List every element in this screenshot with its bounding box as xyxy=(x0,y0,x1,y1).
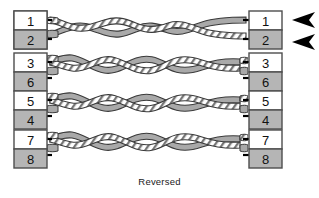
left-pin-label-6: 6 xyxy=(27,75,34,90)
twisted-pair-7-8 xyxy=(47,132,248,152)
left-connector[interactable]: 1 2 3 6 5 4 7 8 xyxy=(14,11,47,168)
left-pin-label-4: 4 xyxy=(27,113,34,128)
cable-bundle xyxy=(47,17,248,152)
twisted-pair-1-2 xyxy=(47,17,246,39)
right-pin-label-7: 7 xyxy=(262,133,269,148)
right-connector[interactable]: 1 2 3 6 5 4 7 8 xyxy=(249,11,282,168)
left-pin-label-1: 1 xyxy=(27,14,34,29)
wire-tip-left-pin8 xyxy=(47,144,58,152)
left-pin-label-3: 3 xyxy=(27,56,34,71)
arrow-marker-pin-2-icon xyxy=(292,34,315,50)
wiring-diagram-svg: 1 2 3 6 5 4 7 8 1 2 3 6 xyxy=(0,0,319,198)
arrow-markers xyxy=(292,12,315,50)
wire-tip-left-pin7 xyxy=(47,132,58,139)
wire-tip-left-pin4 xyxy=(47,105,58,113)
wire-tip-left-pin6 xyxy=(47,67,58,75)
wire-tip-left-pin5 xyxy=(47,93,58,100)
wiring-diagram: 1 2 3 6 5 4 7 8 1 2 3 6 xyxy=(0,0,319,198)
right-pin-label-2: 2 xyxy=(262,33,269,48)
right-pin-label-8: 8 xyxy=(262,152,269,167)
left-pin-label-7: 7 xyxy=(27,133,34,148)
right-pin-label-6: 6 xyxy=(262,75,269,90)
wire-tip-right-pin6 xyxy=(240,67,248,75)
diagram-caption: Reversed xyxy=(0,176,319,187)
twisted-pair-5-4 xyxy=(47,93,248,113)
wire-tip-right-pin4 xyxy=(240,105,248,113)
right-pin-label-1: 1 xyxy=(262,14,269,29)
twisted-pair-3-6 xyxy=(47,55,248,75)
right-pin-label-5: 5 xyxy=(262,94,269,109)
right-pin-label-3: 3 xyxy=(262,56,269,71)
arrow-marker-pin-1-icon xyxy=(292,12,315,28)
wire-tip-right-pin8 xyxy=(240,144,248,152)
right-pin-label-4: 4 xyxy=(262,113,269,128)
wire-tip-left-pin3 xyxy=(47,55,58,62)
left-pin-label-2: 2 xyxy=(27,33,34,48)
wire-tip-left-pin2 xyxy=(47,30,58,38)
left-pin-label-8: 8 xyxy=(27,152,34,167)
left-pin-label-5: 5 xyxy=(27,94,34,109)
